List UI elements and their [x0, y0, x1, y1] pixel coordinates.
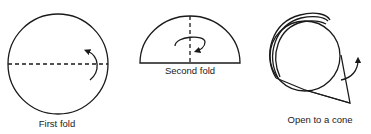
fold-arrow-icon — [87, 51, 97, 80]
cone-base-edge — [305, 90, 350, 103]
second-fold-figure — [140, 16, 240, 63]
open-to-cone-label: Open to a cone — [288, 114, 353, 125]
cone-rim-inner — [276, 21, 326, 77]
second-fold-label: Second fold — [165, 65, 215, 76]
first-fold-label: First fold — [39, 118, 75, 129]
first-fold-figure — [8, 14, 108, 114]
cone-figure — [270, 13, 358, 103]
